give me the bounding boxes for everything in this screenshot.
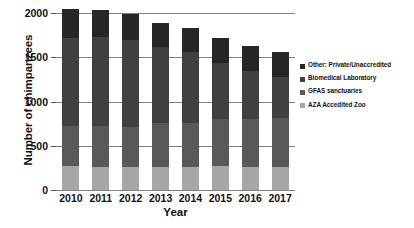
x-axis-title: Year xyxy=(56,206,295,218)
bar-segment xyxy=(182,28,199,53)
legend-label: AZA Accedited Zoo xyxy=(308,102,366,109)
bar-segment xyxy=(92,167,109,190)
legend-item[interactable]: AZA Accedited Zoo xyxy=(300,102,412,109)
bar-segment xyxy=(62,166,79,190)
legend-swatch-icon xyxy=(300,90,305,95)
bar-segment xyxy=(62,126,79,166)
bar-2013[interactable] xyxy=(152,23,169,190)
legend: Other: Private/UnaccreditedBiomedical La… xyxy=(300,62,412,115)
bar-segment xyxy=(212,119,229,166)
bar-segment xyxy=(272,118,289,167)
bar-segment xyxy=(152,123,169,167)
y-tick-label: 1500 xyxy=(25,51,48,63)
legend-label: Biomedical Laboratory xyxy=(308,75,376,82)
bar-segment xyxy=(182,52,199,123)
bar-segment xyxy=(212,63,229,119)
bar-segment xyxy=(182,167,199,190)
legend-swatch-icon xyxy=(300,77,305,82)
bar-segment xyxy=(242,167,259,190)
bar-2010[interactable] xyxy=(62,9,79,190)
y-tick-label: 2000 xyxy=(25,7,48,19)
bar-segment xyxy=(152,47,169,123)
bar-segment xyxy=(122,167,139,190)
legend-item[interactable]: Other: Private/Unaccredited xyxy=(300,62,412,69)
bar-group xyxy=(56,13,295,190)
bar-segment xyxy=(122,14,139,40)
bar-2017[interactable] xyxy=(272,52,289,190)
bar-2011[interactable] xyxy=(92,10,109,190)
legend-swatch-icon xyxy=(300,64,305,69)
bar-segment xyxy=(272,52,289,76)
bar-2016[interactable] xyxy=(242,46,259,190)
stacked-bar-chart: Number of chimpanzees 0500100015002000 2… xyxy=(0,0,414,228)
bar-segment xyxy=(122,127,139,167)
x-tick-label-2017: 2017 xyxy=(263,192,297,204)
bar-2012[interactable] xyxy=(122,14,139,190)
legend-swatch-icon xyxy=(300,103,305,108)
legend-item[interactable]: GFAS sanctuaries xyxy=(300,88,412,95)
bar-segment xyxy=(92,10,109,37)
y-tick-label: 0 xyxy=(42,184,48,196)
legend-label: GFAS sanctuaries xyxy=(308,88,362,95)
bar-segment xyxy=(62,9,79,38)
bar-segment xyxy=(152,167,169,190)
bar-segment xyxy=(152,23,169,47)
bar-segment xyxy=(212,38,229,64)
bar-segment xyxy=(212,166,229,190)
bar-segment xyxy=(92,37,109,126)
bar-segment xyxy=(272,167,289,190)
bar-segment xyxy=(182,123,199,167)
bar-2015[interactable] xyxy=(212,38,229,190)
bar-segment xyxy=(122,40,139,126)
bar-2014[interactable] xyxy=(182,28,199,190)
y-tick-mark-0 xyxy=(51,190,56,191)
bar-segment xyxy=(62,38,79,126)
y-tick-label: 1000 xyxy=(25,96,48,108)
y-tick-label: 500 xyxy=(30,140,48,152)
bar-segment xyxy=(242,119,259,167)
legend-item[interactable]: Biomedical Laboratory xyxy=(300,75,412,82)
bar-segment xyxy=(92,126,109,166)
bar-segment xyxy=(242,71,259,118)
plot-area: 0500100015002000 xyxy=(56,13,295,190)
legend-label: Other: Private/Unaccredited xyxy=(308,62,391,69)
gridline-0 xyxy=(56,190,295,191)
bar-segment xyxy=(242,46,259,71)
bar-segment xyxy=(272,77,289,119)
